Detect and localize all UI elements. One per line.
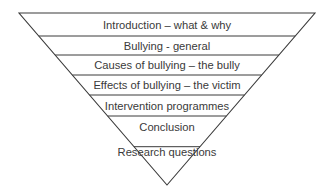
level-label-causes: Causes of bullying – the bully [94,59,240,71]
inverted-pyramid-diagram: Introduction – what & why Bullying - gen… [0,0,333,189]
level-label-conclusion: Conclusion [139,121,194,133]
level-label-introduction: Introduction – what & why [103,19,232,31]
level-label-research-questions: Research questions [118,146,217,158]
level-label-bullying-general: Bullying - general [124,40,210,52]
level-label-effects: Effects of bullying – the victim [93,79,240,91]
level-label-intervention: Intervention programmes [105,100,230,112]
